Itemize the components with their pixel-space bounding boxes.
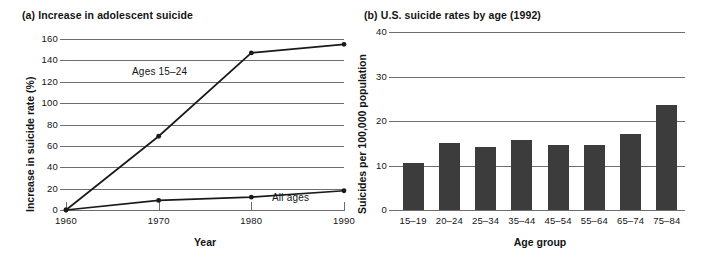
panel-b-y-tick-mark — [389, 210, 395, 211]
panel-b-y-tick-label: 40 — [359, 26, 387, 37]
panel-a-plot-area: 0204060801001201401601960197019801990 — [66, 39, 344, 210]
panel-b-bar — [511, 140, 532, 210]
panel-b-gridline — [395, 32, 685, 33]
panel-a-x-tick-label: 1960 — [44, 215, 88, 226]
panel-a-data-point — [64, 208, 69, 213]
panel-a-data-point — [342, 42, 347, 47]
panel-a-y-axis-title: Increase in suicide rate (%) — [24, 77, 36, 212]
panel-b-bar-chart: (b) U.S. suicide rates by age (1992) 010… — [362, 0, 724, 253]
panel-a-y-tick-label: 160 — [26, 33, 58, 44]
panel-b-bar — [620, 134, 641, 210]
panel-b-y-tick-mark — [389, 121, 395, 122]
panel-b-y-tick-mark — [389, 77, 395, 78]
panel-a-line-chart: (a) Increase in adolescent suicide 02040… — [0, 0, 362, 253]
panel-a-data-point — [156, 198, 161, 203]
panel-b-x-axis-title: Age group — [480, 236, 600, 248]
panel-b-x-axis-line — [395, 210, 685, 211]
panel-b-y-axis-title: Suicides per 100,000 population — [356, 54, 368, 214]
panel-a-x-axis-title: Year — [145, 236, 265, 248]
panel-b-title: (b) U.S. suicide rates by age (1992) — [364, 9, 541, 21]
panel-a-x-tick-label: 1970 — [137, 215, 181, 226]
panel-a-data-point — [249, 195, 254, 200]
panel-a-data-point — [342, 188, 347, 193]
panel-b-bar — [475, 147, 496, 210]
panel-a-series-line-1 — [66, 44, 344, 210]
panel-b-y-tick-mark — [389, 166, 395, 167]
panel-b-bar — [403, 163, 424, 210]
panel-a-title: (a) Increase in adolescent suicide — [22, 9, 193, 21]
panel-a-y-tick-label: 140 — [26, 54, 58, 65]
panel-a-data-point — [156, 134, 161, 139]
panel-b-gridline — [395, 77, 685, 78]
panel-b-x-tick-label: 75–84 — [645, 215, 689, 226]
panel-b-bar — [584, 145, 605, 210]
panel-a-x-tick-label: 1990 — [322, 215, 366, 226]
panel-a-x-tick-label: 1980 — [229, 215, 273, 226]
panel-b-bar — [439, 143, 460, 210]
panel-b-gridline — [395, 121, 685, 122]
panel-b-bar — [656, 105, 677, 210]
panel-b-y-tick-mark — [389, 32, 395, 33]
panel-b-plot-area: 01020304015–1920–2425–3435–4445–5455–646… — [395, 32, 685, 210]
panel-a-data-point — [249, 50, 254, 55]
series-label-all-ages: All ages — [272, 192, 309, 203]
panel-a-series-layer — [66, 39, 348, 214]
two-panel-figure: (a) Increase in adolescent suicide 02040… — [0, 0, 724, 253]
panel-b-bar — [548, 145, 569, 210]
series-label-ages-15-24: Ages 15–24 — [132, 66, 187, 77]
